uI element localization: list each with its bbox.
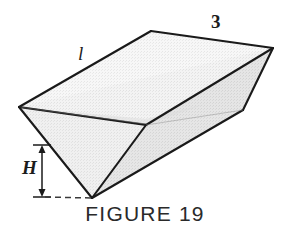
- figure-caption: FIGURE 19: [0, 203, 290, 224]
- height-arrow-down: [39, 189, 46, 197]
- height-arrow-up: [39, 145, 46, 153]
- label-top-edge-3: 3: [211, 12, 221, 31]
- dashed-leader-line: [45, 197, 91, 198]
- label-height-h: H: [22, 158, 37, 177]
- trough-illustration: [0, 0, 290, 233]
- label-length-l: l: [78, 44, 83, 63]
- figure-container: 3 l H FIGURE 19: [0, 0, 290, 233]
